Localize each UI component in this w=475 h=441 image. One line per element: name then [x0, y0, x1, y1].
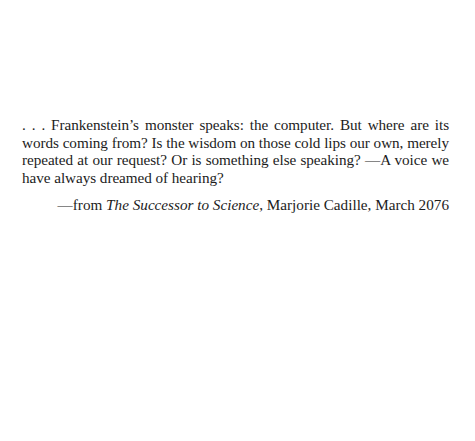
epigraph-quote: . . . Frankenstein’s monster speaks: the…	[22, 116, 449, 186]
attribution-work-title: The Successor to Science	[106, 196, 259, 213]
attribution-prefix: —from	[58, 196, 107, 213]
attribution-suffix: , Marjorie Cadille, March 2076	[259, 196, 449, 213]
epigraph-attribution: —from The Successor to Science, Marjorie…	[58, 196, 449, 214]
